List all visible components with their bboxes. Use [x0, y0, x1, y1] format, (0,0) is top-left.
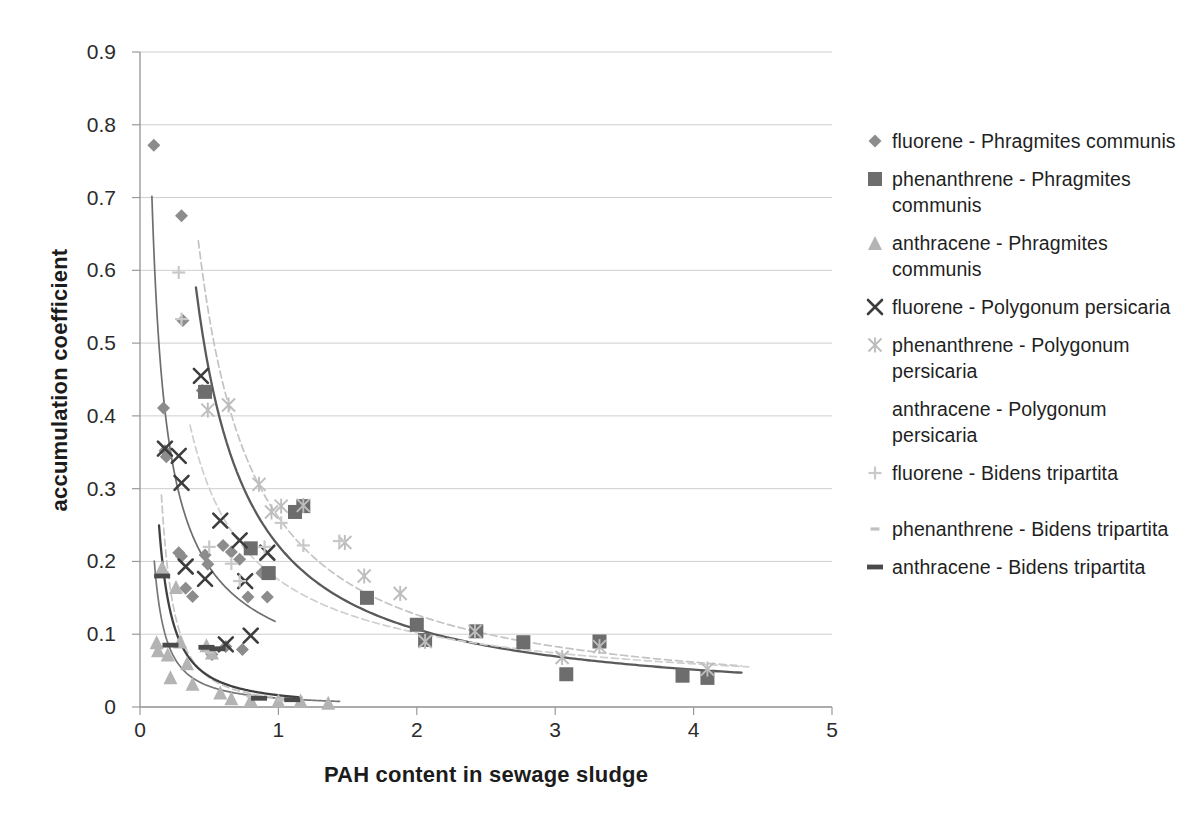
x-tick-label: 5	[826, 718, 838, 742]
marker-triangle	[868, 236, 882, 250]
marker-diamond	[157, 401, 170, 414]
marker-asterisk	[869, 338, 882, 353]
y-tick-label: 0.7	[87, 186, 116, 210]
marker-square	[868, 172, 882, 186]
marker-plus	[297, 539, 310, 552]
legend-item[interactable]: anthracene - Bidens tripartita	[862, 554, 1192, 580]
legend-marker-dash-small-icon	[862, 516, 888, 542]
legend-item-label: fluorene - Phragmites communis	[892, 128, 1176, 154]
marker-diamond	[147, 139, 160, 152]
plot-svg	[140, 52, 832, 707]
axis-lines	[132, 52, 832, 715]
marker-asterisk	[222, 397, 235, 412]
trendline-series-1	[196, 288, 742, 673]
legend-item-label: phenanthrene - Polygonum persicaria	[892, 332, 1192, 384]
dash-marker	[284, 697, 300, 702]
marker-square	[516, 635, 530, 649]
y-tick-label: 0.6	[87, 258, 116, 282]
marker-dash-small	[871, 527, 880, 530]
dash-marker	[162, 643, 178, 648]
legend-item[interactable]: fluorene - Polygonum persicaria	[862, 294, 1192, 320]
legend-item[interactable]: phenanthrene - Polygonum persicaria	[862, 332, 1192, 384]
dash-marker	[210, 646, 226, 651]
marker-diamond	[869, 135, 882, 148]
x-tick-label: 0	[134, 718, 146, 742]
legend-item-label: anthracene - Phragmites communis	[892, 230, 1192, 282]
y-tick-label: 0.3	[87, 477, 116, 501]
plot-area	[140, 52, 832, 707]
legend-item[interactable]: anthracene - Polygonum persicaria	[862, 396, 1192, 448]
diamond-marker	[157, 401, 170, 414]
marker-x	[172, 449, 186, 463]
series-6-points	[172, 266, 346, 588]
legend-marker-square-icon	[862, 166, 888, 192]
diamond-marker	[236, 643, 249, 656]
dash-marker	[867, 565, 883, 570]
legend-item-label: phenanthrene - Bidens tripartita	[892, 516, 1168, 542]
marker-plus	[233, 575, 246, 588]
diamond-marker	[201, 558, 214, 571]
diamond-marker	[241, 591, 254, 604]
y-tick-label: 0.2	[87, 549, 116, 573]
marker-asterisk	[201, 403, 214, 418]
triangle-marker	[163, 670, 177, 684]
series-4-points	[201, 397, 714, 676]
legend-item-label: fluorene - Polygonum persicaria	[892, 294, 1170, 320]
marker-dash	[210, 646, 226, 651]
diamond-marker	[869, 135, 882, 148]
marker-diamond	[261, 591, 274, 604]
marker-dash	[251, 696, 267, 701]
scatter-chart: accumulation coefficient 00.10.20.30.40.…	[0, 0, 860, 828]
square-marker	[262, 566, 276, 580]
square-marker	[868, 172, 882, 186]
marker-dash	[867, 565, 883, 570]
diamond-marker	[261, 591, 274, 604]
y-tick-label: 0.4	[87, 404, 116, 428]
trendline-series-0	[152, 196, 275, 621]
square-marker	[198, 385, 212, 399]
marker-x	[233, 533, 247, 547]
legend-item-label: phenanthrene - Phragmites communis	[892, 166, 1192, 218]
marker-square	[360, 591, 374, 605]
marker-asterisk	[358, 569, 371, 584]
y-tick-label: 0.1	[87, 622, 116, 646]
square-marker	[516, 635, 530, 649]
square-marker	[244, 541, 258, 555]
legend-item[interactable]: anthracene - Phragmites communis	[862, 230, 1192, 282]
marker-square	[198, 385, 212, 399]
marker-x	[194, 369, 208, 383]
diamond-marker	[147, 139, 160, 152]
x-tick-label: 3	[549, 718, 561, 742]
marker-dash	[284, 697, 300, 702]
y-tick-label: 0	[104, 695, 116, 719]
data-points	[147, 139, 714, 710]
x-tick-label: 4	[688, 718, 700, 742]
y-tick-label: 0.5	[87, 331, 116, 355]
diamond-marker	[175, 209, 188, 222]
dash-small-marker	[871, 527, 880, 530]
trend-lines	[152, 196, 749, 701]
legend-item[interactable]: fluorene - Phragmites communis	[862, 128, 1192, 154]
legend-item[interactable]: phenanthrene - Bidens tripartita	[862, 516, 1192, 542]
marker-diamond	[175, 209, 188, 222]
marker-dash	[162, 643, 178, 648]
square-marker	[676, 669, 690, 683]
square-marker	[410, 618, 424, 632]
marker-square	[262, 566, 276, 580]
marker-square	[469, 624, 483, 638]
marker-dash	[154, 574, 170, 579]
legend-item[interactable]: fluorene - Bidens tripartita	[862, 460, 1192, 486]
marker-square	[676, 669, 690, 683]
diamond-marker	[176, 314, 189, 327]
marker-square	[559, 667, 573, 681]
legend-marker-x-icon	[862, 294, 888, 320]
legend-marker-diamond-icon	[862, 128, 888, 154]
marker-x	[244, 629, 258, 643]
legend-item-label: anthracene - Bidens tripartita	[892, 554, 1145, 580]
legend-item[interactable]: phenanthrene - Phragmites communis	[862, 166, 1192, 218]
triangle-marker	[868, 236, 882, 250]
square-marker	[559, 667, 573, 681]
x-axis-title: PAH content in sewage sludge	[140, 762, 832, 788]
y-tick-label: 0.8	[87, 113, 116, 137]
legend-item-label: anthracene - Polygonum persicaria	[892, 396, 1192, 448]
